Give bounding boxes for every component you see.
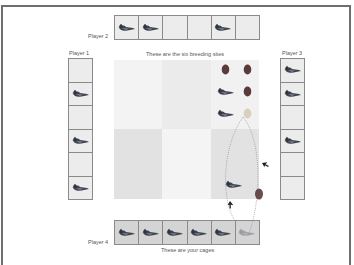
- cage-cell[interactable]: [281, 153, 304, 177]
- egg-icon: [243, 108, 252, 119]
- cage-cell[interactable]: [236, 16, 259, 39]
- cage-cell[interactable]: [115, 16, 139, 39]
- cage-cell[interactable]: [188, 221, 212, 244]
- bird-icon: [284, 65, 302, 75]
- cage-cell[interactable]: [69, 177, 92, 200]
- breeding-site[interactable]: [211, 60, 259, 129]
- bird-icon: [284, 136, 302, 146]
- player-2-label: Player 2: [88, 33, 108, 39]
- cage-cell[interactable]: [139, 16, 163, 39]
- cage-cell[interactable]: [281, 106, 304, 130]
- bird-icon: [72, 89, 90, 99]
- cage-cell[interactable]: [236, 221, 259, 244]
- breeding-site[interactable]: [162, 129, 211, 199]
- player-4-label: Player 4: [88, 239, 108, 245]
- bird-icon: [118, 23, 136, 33]
- cage-cell[interactable]: [281, 83, 304, 107]
- bird-icon: [214, 228, 232, 238]
- cage-cell[interactable]: [69, 83, 92, 107]
- bird-icon: [166, 228, 184, 238]
- cage-cell[interactable]: [69, 130, 92, 154]
- cage-cell[interactable]: [163, 221, 187, 244]
- cage-cell[interactable]: [212, 221, 236, 244]
- egg-icon: [243, 86, 252, 97]
- cage-cell[interactable]: [163, 16, 187, 39]
- breeding-site[interactable]: [114, 129, 162, 199]
- bird-icon: [284, 89, 302, 99]
- player-4-cages: [114, 220, 260, 245]
- bird-icon: [217, 87, 235, 97]
- breeding-site[interactable]: [211, 129, 259, 199]
- cage-cell[interactable]: [281, 130, 304, 154]
- player-2-cages: [114, 15, 260, 40]
- breeding-sites-caption: These are the six breeding sites: [146, 51, 224, 57]
- player-3-label: Player 3: [282, 50, 302, 56]
- bird-icon: [142, 23, 160, 33]
- bird-icon: [190, 228, 208, 238]
- cage-cell[interactable]: [188, 16, 212, 39]
- cage-cell[interactable]: [69, 59, 92, 83]
- egg-icon: [221, 64, 230, 75]
- breeding-site[interactable]: [114, 60, 162, 129]
- bird-icon: [142, 228, 160, 238]
- egg-icon: [243, 64, 252, 75]
- bird-icon: [238, 228, 256, 238]
- breeding-sites-grid: [114, 60, 259, 199]
- player-1-label: Player 1: [69, 50, 89, 56]
- cage-cell[interactable]: [281, 177, 304, 200]
- bird-icon: [72, 136, 90, 146]
- player-3-cages: [280, 58, 305, 200]
- cage-cell[interactable]: [69, 153, 92, 177]
- breeding-site[interactable]: [162, 60, 211, 129]
- cage-cell[interactable]: [115, 221, 139, 244]
- bird-icon: [217, 109, 235, 119]
- player-1-cages: [68, 58, 93, 200]
- cage-cell[interactable]: [139, 221, 163, 244]
- bird-icon: [214, 23, 232, 33]
- cages-caption: These are your cages: [161, 247, 214, 253]
- cage-cell[interactable]: [212, 16, 236, 39]
- bird-icon: [225, 180, 243, 190]
- bird-icon: [118, 228, 136, 238]
- cage-cell[interactable]: [69, 106, 92, 130]
- bird-icon: [72, 183, 90, 193]
- cage-cell[interactable]: [281, 59, 304, 83]
